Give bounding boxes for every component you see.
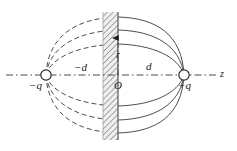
field-line-middle-lower-right: [118, 75, 184, 120]
minus-d-label: −d: [74, 62, 87, 73]
hatched-plane: [103, 12, 118, 140]
dipole-field-figure: −q +q −d d O r z: [0, 0, 237, 151]
negative-charge-label: −q: [29, 80, 42, 91]
field-line-inner-lower-right: [118, 75, 184, 106]
z-axis-label: z: [220, 69, 224, 79]
plus-d-label: d: [146, 61, 152, 72]
negative-charge-marker: [41, 70, 51, 80]
origin-label: O: [114, 80, 122, 91]
r-axis-label: r: [116, 50, 120, 60]
figure-canvas: [0, 0, 237, 151]
positive-charge-label: +q: [178, 80, 191, 91]
field-line-outer-lower-right: [118, 75, 184, 133]
